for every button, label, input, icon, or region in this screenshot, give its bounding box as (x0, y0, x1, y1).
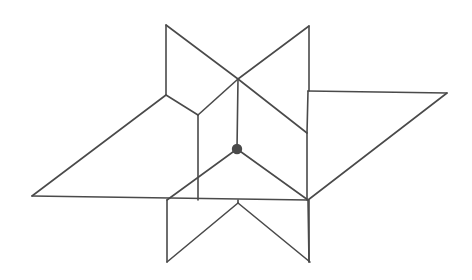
cross-to-inner-left (198, 79, 238, 115)
lower-left-blade-diagonal (167, 203, 238, 262)
figure-vertex-group (232, 144, 242, 154)
center-vertex-dot (232, 144, 242, 154)
pinwheel-star-figure (0, 0, 472, 280)
upper-right-blade-diagonal (238, 26, 309, 79)
figure-canvas (0, 0, 472, 280)
right-notch-to-inner-right (307, 91, 308, 133)
figure-lines-group (32, 25, 447, 262)
right-notch-to-right-apex (308, 91, 447, 93)
center-vertical-spoke (237, 79, 238, 149)
center-spoke-lower-right (237, 149, 308, 200)
right-apex-to-base-right (308, 93, 447, 200)
upper-left-blade-diagonal (166, 25, 238, 79)
center-spoke-lower-left (167, 149, 237, 200)
left-notch-to-inner-left (166, 95, 198, 115)
baseline-horizontal (32, 196, 308, 200)
base-right-vertical-extension (308, 200, 309, 262)
lower-right-blade-diagonal (238, 203, 310, 262)
cross-to-inner-right (238, 79, 307, 133)
left-notch-to-left-apex (32, 95, 166, 196)
